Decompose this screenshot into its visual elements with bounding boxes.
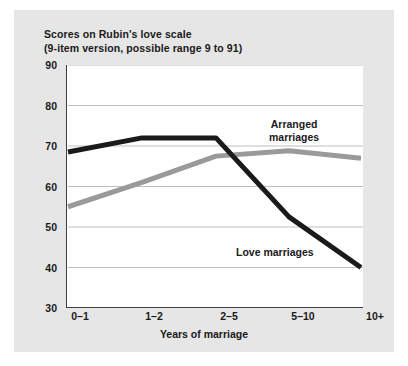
annotation-love-marriages: Love marriages <box>236 246 314 259</box>
series-line-arranged-marriages <box>68 151 361 207</box>
chart-title-line1: Scores on Rubin's love scale <box>44 28 192 40</box>
x-tick-0-1: 0–1 <box>71 310 89 322</box>
x-axis-title: Years of marriage <box>14 328 394 340</box>
y-tick-80: 80 <box>45 100 57 112</box>
annotation-arranged-line1: Arranged <box>271 118 318 130</box>
y-axis-tick-labels: 90 80 70 60 50 40 30 <box>14 65 62 308</box>
y-tick-60: 60 <box>45 181 57 193</box>
y-tick-70: 70 <box>45 140 57 152</box>
plot-area <box>66 65 363 308</box>
chart-title-line2: (9-item version, possible range 9 to 91) <box>44 42 242 56</box>
y-tick-90: 90 <box>45 59 57 71</box>
x-tick-10plus: 10+ <box>366 310 384 322</box>
annotation-arranged-line2: marriages <box>269 131 319 143</box>
chart-figure: Scores on Rubin's love scale (9-item ver… <box>14 10 394 352</box>
y-tick-30: 30 <box>45 302 57 314</box>
y-tick-50: 50 <box>45 221 57 233</box>
y-tick-40: 40 <box>45 262 57 274</box>
annotation-arranged-marriages: Arranged marriages <box>269 118 319 144</box>
x-tick-5-10: 5–10 <box>291 310 314 322</box>
x-axis-tick-labels: 0–1 1–2 2–5 5–10 10+ <box>66 310 366 328</box>
x-tick-2-5: 2–5 <box>220 310 238 322</box>
chart-title: Scores on Rubin's love scale (9-item ver… <box>44 28 242 55</box>
chart-svg <box>66 65 363 308</box>
x-tick-1-2: 1–2 <box>145 310 163 322</box>
